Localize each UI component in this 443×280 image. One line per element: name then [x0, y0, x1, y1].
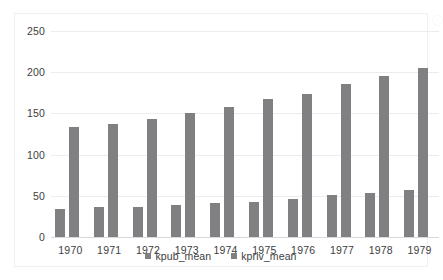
bar-group — [284, 31, 323, 237]
bar-kpriv_mean-1976[interactable] — [302, 94, 312, 237]
bar-kpub_mean-1977[interactable] — [327, 195, 337, 237]
bar-group — [245, 31, 284, 237]
bar-kpub_mean-1973[interactable] — [171, 205, 181, 237]
gridline — [51, 237, 439, 238]
legend-label: kpub_mean — [155, 250, 211, 262]
y-axis-tick-label: 0 — [39, 231, 45, 243]
y-axis-tick-label: 200 — [27, 66, 45, 78]
bar-group — [400, 31, 439, 237]
bar-kpub_mean-1979[interactable] — [404, 190, 414, 237]
bar-kpriv_mean-1978[interactable] — [379, 76, 389, 238]
bar-kpub_mean-1975[interactable] — [249, 202, 259, 237]
y-axis-tick-label: 250 — [27, 25, 45, 37]
y-axis-tick-label: 150 — [27, 107, 45, 119]
plot-area: 050100150200250 197019711972197319741975… — [51, 31, 439, 237]
bar-group — [361, 31, 400, 237]
bar-kpub_mean-1972[interactable] — [133, 207, 143, 237]
bar-kpub_mean-1976[interactable] — [288, 199, 298, 237]
bar-kpub_mean-1970[interactable] — [55, 209, 65, 237]
bar-group — [51, 31, 90, 237]
y-axis-tick-label: 50 — [33, 190, 45, 202]
chart-plot-wrapper: 050100150200250 197019711972197319741975… — [15, 14, 427, 266]
bar-kpriv_mean-1975[interactable] — [263, 99, 273, 237]
bar-group — [323, 31, 362, 237]
legend-entry-kpriv_mean[interactable]: kpriv_mean — [231, 250, 296, 262]
bar-group — [206, 31, 245, 237]
bar-group — [90, 31, 129, 237]
legend-label: kpriv_mean — [241, 250, 296, 262]
chart-card: 050100150200250 197019711972197319741975… — [14, 13, 428, 267]
bar-kpub_mean-1971[interactable] — [94, 207, 104, 237]
bar-kpriv_mean-1972[interactable] — [147, 119, 157, 237]
capture-artifact-icon — [432, 15, 443, 26]
bar-kpriv_mean-1971[interactable] — [108, 124, 118, 237]
bar-kpriv_mean-1970[interactable] — [69, 127, 79, 237]
legend-swatch-icon — [145, 253, 151, 259]
bar-kpriv_mean-1974[interactable] — [224, 107, 234, 237]
bar-kpriv_mean-1973[interactable] — [185, 113, 195, 237]
bar-kpriv_mean-1977[interactable] — [341, 84, 351, 237]
y-axis-tick-label: 100 — [27, 149, 45, 161]
legend-entry-kpub_mean[interactable]: kpub_mean — [145, 250, 211, 262]
bar-kpriv_mean-1979[interactable] — [418, 68, 428, 237]
bar-group — [167, 31, 206, 237]
bar-kpub_mean-1978[interactable] — [365, 193, 375, 237]
bar-group — [129, 31, 168, 237]
bar-kpub_mean-1974[interactable] — [210, 203, 220, 237]
chart-legend: kpub_meankpriv_mean — [15, 250, 427, 262]
bar-series-container — [51, 31, 439, 237]
legend-swatch-icon — [231, 253, 237, 259]
